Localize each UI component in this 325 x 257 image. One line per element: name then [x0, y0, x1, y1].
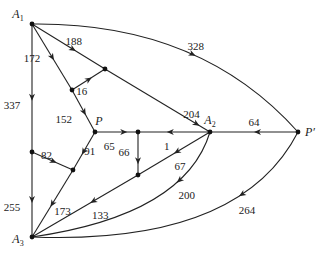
arrow-icon: [89, 197, 98, 206]
edge-weight-label: 1: [164, 140, 170, 152]
arrow-icon: [84, 75, 93, 84]
node-n3: [136, 130, 141, 135]
edge-n4-A3: [32, 175, 138, 237]
node-A1: [30, 22, 35, 27]
node-n6: [71, 168, 76, 173]
node-label: P′: [304, 125, 315, 139]
node-label: A2: [203, 113, 215, 129]
node-n1: [70, 88, 75, 93]
arrow-icon: [192, 120, 201, 129]
node-A2: [208, 130, 213, 135]
arrow-icon: [80, 108, 89, 117]
edge-weight-label: 82: [41, 149, 52, 161]
edge-weight-label: 188: [66, 35, 83, 47]
edge-weight-label: 133: [92, 209, 109, 221]
edge-weight-label: 328: [187, 40, 204, 52]
node-label: P: [94, 114, 103, 128]
node-n5: [30, 150, 35, 155]
node-label: A3: [11, 232, 23, 248]
edge-weight-label: 204: [183, 108, 200, 120]
edge-weight-label: 67: [175, 160, 187, 172]
edge-weight-label: 66: [119, 146, 131, 158]
edge-weight-label: 64: [249, 116, 261, 128]
node-label: A1: [11, 7, 23, 23]
edge-weight-label: 337: [4, 99, 21, 111]
edge-n2-A2: [105, 69, 210, 132]
edge-weight-label: 200: [179, 189, 196, 201]
edge-weight-label: 65: [104, 140, 116, 152]
edge-weight-label: 172: [24, 52, 41, 64]
node-P: [93, 130, 98, 135]
node-n2: [103, 67, 108, 72]
node-Pp: [296, 130, 301, 135]
node-A3: [30, 235, 35, 240]
arrow-icon: [237, 190, 246, 199]
node-n4: [136, 173, 141, 178]
edge-weight-label: 16: [76, 85, 88, 97]
edge-weight-label: 264: [239, 204, 256, 216]
edge-weight-label: 255: [4, 201, 21, 213]
arrow-icon: [172, 147, 181, 156]
edge-weight-label: 152: [56, 113, 73, 125]
edge-weight-label: 91: [84, 145, 95, 157]
edge-weight-label: 173: [54, 205, 71, 217]
network-diagram: 3281882041721615233725582911736516667133…: [0, 0, 325, 257]
arrow-icon: [48, 53, 57, 62]
